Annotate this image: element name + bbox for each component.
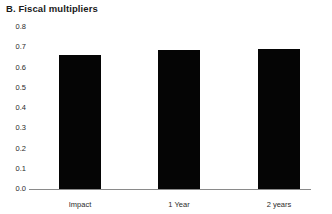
x-axis-tick-label: 1 Year bbox=[168, 200, 189, 209]
figure-panel-b: B. Fiscal multipliers 0.80.70.60.50.40.3… bbox=[0, 0, 332, 214]
bar bbox=[158, 50, 200, 189]
bar bbox=[59, 55, 101, 189]
x-axis-tick-label: 2 years bbox=[267, 200, 292, 209]
bars-layer bbox=[0, 0, 332, 214]
x-axis-tick-label: Impact bbox=[69, 200, 92, 209]
bar bbox=[258, 49, 300, 189]
x-axis: Impact1 Year2 years bbox=[0, 196, 332, 212]
